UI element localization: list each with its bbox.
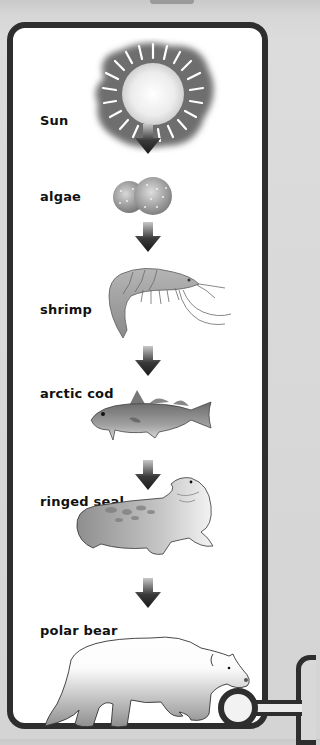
arrow-down-icon (135, 222, 161, 252)
arrow-down-icon (135, 578, 161, 608)
shrimp-icon (103, 266, 233, 346)
top-tab (150, 0, 194, 4)
label-algae: algae (40, 189, 81, 204)
label-sun: Sun (40, 113, 68, 128)
arrow-down-icon (135, 124, 161, 154)
algae-icon (111, 177, 173, 217)
arrow-down-icon (135, 346, 161, 376)
label-shrimp: shrimp (40, 302, 92, 317)
connector-bar-inner (252, 704, 302, 712)
seal-icon (71, 476, 221, 558)
connector-node (218, 688, 258, 728)
fish-icon (89, 390, 215, 446)
food-chain-panel: Sun (7, 22, 268, 729)
